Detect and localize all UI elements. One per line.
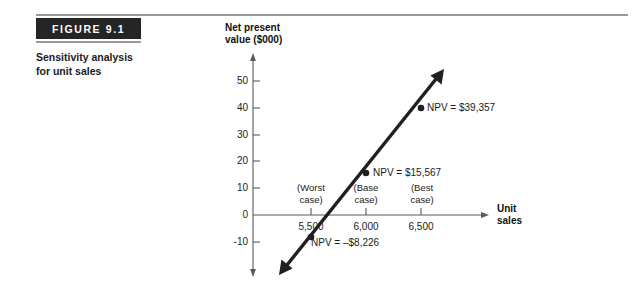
y-tick-label-neg10: -10 — [225, 236, 248, 248]
x-axis-title-line-2: sales — [497, 215, 522, 227]
sensitivity-chart: Net present value ($000) Unit sales 50 4… — [0, 0, 643, 286]
case-label-worst-line-2: case) — [285, 194, 337, 206]
x-tick-label-6000: 6,000 — [346, 221, 386, 233]
case-label-base: (Base case) — [342, 182, 390, 205]
y-axis-down-arrowhead — [250, 269, 256, 277]
npv-annotation-worst-case: NPV = –$8,226 — [311, 237, 379, 249]
x-tick-label-5500: 5,500 — [291, 221, 331, 233]
y-axis-title-line-1: Net present — [225, 22, 282, 34]
y-tick-label-20: 20 — [230, 155, 248, 167]
y-axis-ticks — [253, 81, 260, 242]
y-axis-title: Net present value ($000) — [225, 22, 282, 46]
y-tick-label-10: 10 — [230, 182, 248, 194]
npv-annotation-best-case: NPV = $39,357 — [427, 102, 495, 114]
x-tick-label-6500: 6,500 — [401, 221, 441, 233]
y-axis-up-arrowhead — [250, 53, 256, 61]
case-label-best-line-2: case) — [398, 194, 446, 206]
case-label-base-line-2: case) — [342, 194, 390, 206]
y-tick-label-40: 40 — [230, 102, 248, 114]
y-tick-label-50: 50 — [230, 75, 248, 87]
case-label-worst: (Worst case) — [285, 182, 337, 205]
x-axis-right-arrowhead — [481, 212, 489, 218]
case-label-best-line-1: (Best — [398, 182, 446, 194]
npv-annotation-base-case: NPV = $15,567 — [373, 167, 441, 179]
x-axis-title: Unit sales — [497, 203, 522, 227]
case-label-base-line-1: (Base — [342, 182, 390, 194]
data-point-base-case — [363, 170, 370, 177]
data-point-best-case — [418, 105, 425, 112]
case-label-worst-line-1: (Worst — [285, 182, 337, 194]
x-axis-title-line-1: Unit — [497, 203, 522, 215]
y-tick-label-30: 30 — [230, 129, 248, 141]
figure-page: FIGURE 9.1 Sensitivity analysis for unit… — [0, 0, 643, 286]
y-axis-title-line-2: value ($000) — [225, 34, 282, 46]
case-label-best: (Best case) — [398, 182, 446, 205]
y-tick-label-0: 0 — [230, 209, 248, 221]
